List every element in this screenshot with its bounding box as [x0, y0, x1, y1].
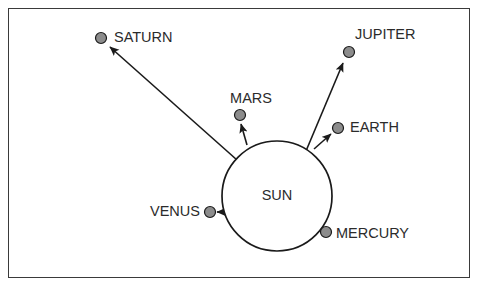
planet-dot-venus [205, 207, 216, 218]
label-jupiter: JUPITER [355, 26, 415, 42]
arrow-to-earth [314, 134, 331, 149]
solar-system-svg: SATURN JUPITER MARS EARTH VENUS MERCURY … [0, 0, 484, 296]
label-earth: EARTH [350, 119, 399, 135]
arrow-to-jupiter [306, 63, 343, 151]
arrow-to-mars [241, 124, 247, 145]
label-sun: SUN [262, 187, 293, 203]
planet-dot-earth [333, 123, 344, 134]
planet-dot-saturn [96, 33, 107, 44]
diagram-canvas: SATURN JUPITER MARS EARTH VENUS MERCURY … [0, 0, 484, 296]
label-saturn: SATURN [114, 29, 173, 45]
label-venus: VENUS [150, 203, 200, 219]
label-mercury: MERCURY [336, 225, 409, 241]
planet-dot-mercury [321, 227, 332, 238]
planet-dot-mars [235, 110, 246, 121]
label-mars: MARS [230, 90, 272, 106]
planet-dot-jupiter [344, 47, 355, 58]
arrow-to-saturn [110, 47, 237, 160]
